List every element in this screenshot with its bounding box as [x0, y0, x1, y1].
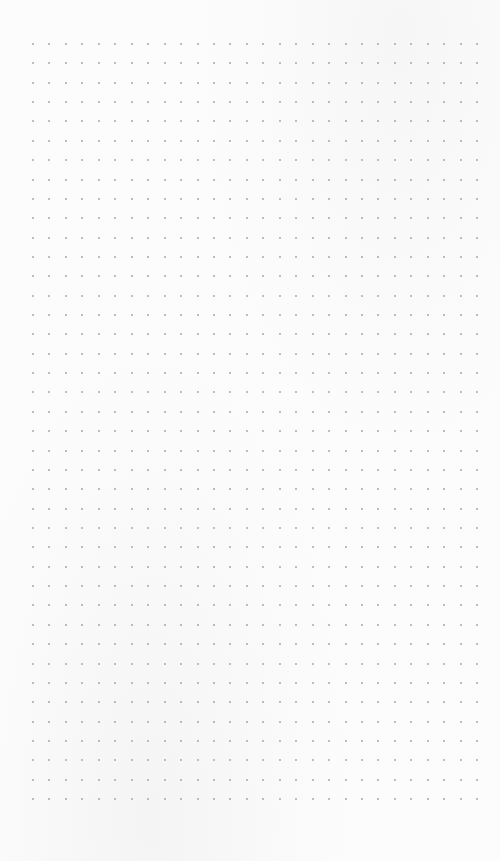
grid-dot	[377, 527, 379, 529]
grid-dot	[279, 508, 281, 510]
grid-dot	[295, 411, 297, 413]
grid-dot	[427, 566, 429, 568]
grid-dot	[410, 663, 412, 665]
grid-dot	[460, 101, 462, 103]
grid-dot	[246, 663, 248, 665]
grid-dot	[295, 101, 297, 103]
grid-dot	[48, 740, 50, 742]
grid-dot	[410, 740, 412, 742]
grid-dot	[279, 488, 281, 490]
grid-dot	[197, 43, 199, 45]
grid-dot	[81, 237, 83, 239]
grid-dot	[460, 275, 462, 277]
grid-dot	[476, 43, 478, 45]
grid-dot	[328, 604, 330, 606]
grid-dot	[98, 740, 100, 742]
grid-dot	[394, 140, 396, 142]
grid-dot	[328, 82, 330, 84]
grid-dot	[98, 295, 100, 297]
grid-dot	[312, 604, 314, 606]
grid-dot	[394, 314, 396, 316]
grid-dot	[345, 663, 347, 665]
grid-dot	[197, 217, 199, 219]
grid-dot	[394, 372, 396, 374]
grid-dot	[81, 624, 83, 626]
grid-dot	[48, 43, 50, 45]
grid-dot	[213, 140, 215, 142]
grid-dot	[197, 585, 199, 587]
grid-dot	[48, 295, 50, 297]
grid-dot	[460, 82, 462, 84]
grid-dot	[328, 779, 330, 781]
grid-dot	[32, 62, 34, 64]
grid-dot	[410, 372, 412, 374]
grid-dot	[476, 604, 478, 606]
grid-dot	[131, 256, 133, 258]
grid-dot	[262, 237, 264, 239]
grid-dot	[328, 217, 330, 219]
grid-dot	[131, 469, 133, 471]
grid-dot	[377, 314, 379, 316]
grid-dot	[131, 508, 133, 510]
grid-dot	[262, 411, 264, 413]
grid-dot	[197, 759, 199, 761]
grid-dot	[246, 469, 248, 471]
grid-dot	[114, 159, 116, 161]
grid-dot	[262, 566, 264, 568]
grid-dot	[213, 450, 215, 452]
grid-dot	[262, 391, 264, 393]
grid-dot	[345, 198, 347, 200]
grid-dot	[279, 430, 281, 432]
grid-dot	[197, 140, 199, 142]
grid-dot	[98, 585, 100, 587]
grid-dot	[197, 101, 199, 103]
grid-dot	[213, 295, 215, 297]
grid-dot	[131, 721, 133, 723]
grid-dot	[213, 256, 215, 258]
grid-dot	[213, 624, 215, 626]
grid-dot	[460, 159, 462, 161]
grid-dot	[180, 430, 182, 432]
grid-dot	[377, 159, 379, 161]
grid-dot	[377, 566, 379, 568]
grid-dot	[443, 740, 445, 742]
grid-dot	[197, 527, 199, 529]
grid-dot	[48, 701, 50, 703]
grid-dot	[394, 391, 396, 393]
grid-dot	[312, 314, 314, 316]
grid-dot	[197, 314, 199, 316]
grid-dot	[164, 391, 166, 393]
grid-dot	[361, 488, 363, 490]
grid-dot	[262, 546, 264, 548]
grid-dot	[328, 256, 330, 258]
grid-dot	[377, 275, 379, 277]
grid-dot	[81, 256, 83, 258]
grid-dot	[460, 391, 462, 393]
grid-dot	[32, 682, 34, 684]
grid-dot	[345, 82, 347, 84]
grid-dot	[164, 546, 166, 548]
grid-dot	[460, 624, 462, 626]
grid-dot	[81, 82, 83, 84]
grid-dot	[279, 140, 281, 142]
grid-dot	[131, 314, 133, 316]
grid-dot	[377, 450, 379, 452]
grid-dot	[394, 508, 396, 510]
grid-dot	[476, 469, 478, 471]
grid-dot	[427, 759, 429, 761]
grid-dot	[279, 256, 281, 258]
grid-dot	[460, 430, 462, 432]
grid-dot	[48, 566, 50, 568]
grid-dot	[377, 120, 379, 122]
grid-dot	[65, 740, 67, 742]
grid-dot	[443, 101, 445, 103]
grid-dot	[114, 275, 116, 277]
grid-dot	[312, 430, 314, 432]
grid-dot	[164, 353, 166, 355]
grid-dot	[229, 798, 231, 800]
grid-dot	[312, 159, 314, 161]
grid-dot	[377, 721, 379, 723]
grid-dot	[164, 217, 166, 219]
grid-dot	[295, 701, 297, 703]
grid-dot	[229, 508, 231, 510]
